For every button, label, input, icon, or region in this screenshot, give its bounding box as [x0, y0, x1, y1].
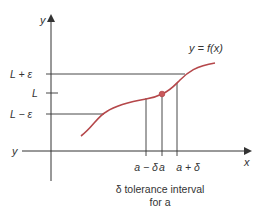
y-tick-l-plus-eps: L + ε [10, 68, 33, 80]
x-tick-a-plus-delta: a + δ [176, 161, 200, 173]
caption-line2: for a [149, 196, 170, 208]
limit-diagram: y x y y = f(x) L + ε L L − ε a − δ a a +… [0, 0, 262, 219]
left-axis-label: y [11, 145, 19, 157]
x-tick-a-minus-delta: a − δ [134, 161, 158, 173]
y-tick-l: L [32, 87, 38, 99]
x-tick-a: a [159, 161, 165, 173]
function-label: y = f(x) [188, 42, 223, 54]
limit-point [159, 91, 165, 97]
y-axis-label: y [39, 14, 47, 26]
caption-line1: δ tolerance interval [116, 183, 205, 195]
y-tick-l-minus-eps: L − ε [10, 108, 33, 120]
x-axis-label: x [243, 156, 250, 168]
